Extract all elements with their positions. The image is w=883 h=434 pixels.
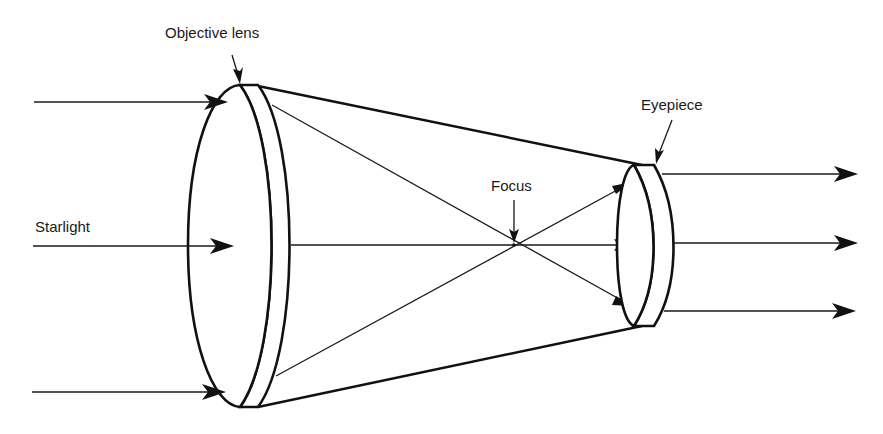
starlight-label: Starlight [35, 218, 91, 235]
objective-lens-label: Objective lens [165, 24, 259, 41]
label-pointers [232, 55, 672, 243]
outgoing-rays [662, 166, 858, 319]
arrowhead-icon [233, 67, 243, 84]
telescope-tube [258, 86, 642, 407]
focus-point [512, 243, 516, 247]
eyepiece-label: Eyepiece [641, 96, 703, 113]
converging-rays [272, 105, 632, 376]
eyepiece [617, 165, 674, 326]
telescope-diagram: Objective lens Eyepiece Focus Starlight [0, 0, 883, 434]
focus-label: Focus [491, 177, 532, 194]
